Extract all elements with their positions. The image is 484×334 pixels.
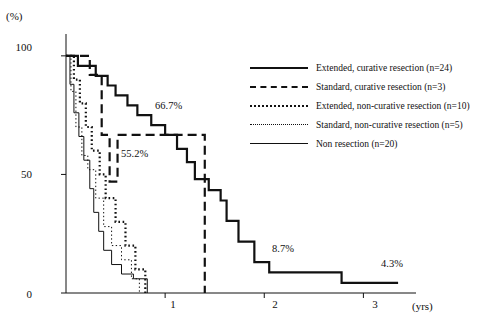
chart-container: (%) (yrs) 0 50 100 1 2 3 66.7% 55.2% 8.7…	[0, 0, 484, 334]
legend-item-extended-noncurative: Extended, non-curative resection (n=10)	[250, 96, 475, 115]
legend-swatch-solid-thin	[250, 139, 308, 149]
legend-item-standard-curative: Standard, curative resection (n=3)	[250, 77, 475, 96]
series-path	[66, 56, 205, 293]
legend-swatch-dotted-thick	[250, 101, 308, 111]
legend: Extended, curative resection (n=24) Stan…	[250, 58, 475, 153]
legend-label-extended-noncurative: Extended, non-curative resection (n=10)	[308, 101, 470, 111]
legend-label-non-resection: Non resection (n=20)	[308, 139, 397, 149]
legend-swatch-solid-thick	[250, 63, 308, 73]
survival-curves-plot	[0, 0, 484, 334]
series-path	[66, 56, 147, 293]
legend-item-extended-curative: Extended, curative resection (n=24)	[250, 58, 475, 77]
legend-item-non-resection: Non resection (n=20)	[250, 134, 475, 153]
legend-swatch-dotted-thin	[250, 120, 308, 130]
series-path	[66, 56, 145, 293]
legend-label-standard-noncurative: Standard, non-curative resection (n=5)	[308, 120, 463, 130]
legend-label-standard-curative: Standard, curative resection (n=3)	[308, 82, 445, 92]
legend-item-standard-noncurative: Standard, non-curative resection (n=5)	[250, 115, 475, 134]
legend-swatch-dashed-thick	[250, 82, 308, 92]
legend-label-extended-curative: Extended, curative resection (n=24)	[308, 63, 452, 73]
